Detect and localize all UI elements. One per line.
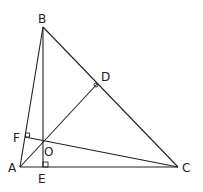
point-label-d: D bbox=[101, 70, 110, 84]
point-label-b: B bbox=[38, 12, 46, 26]
point-label-e: E bbox=[38, 172, 46, 186]
right-angle-marker-f bbox=[26, 133, 30, 137]
side-bc bbox=[43, 27, 178, 167]
point-label-a: A bbox=[8, 161, 17, 175]
point-label-c: C bbox=[182, 161, 190, 175]
point-label-o: O bbox=[44, 145, 53, 159]
right-angle-marker-e bbox=[43, 162, 48, 167]
point-label-f: F bbox=[13, 131, 20, 145]
geometry-diagram: B D F O A E C bbox=[0, 0, 203, 192]
